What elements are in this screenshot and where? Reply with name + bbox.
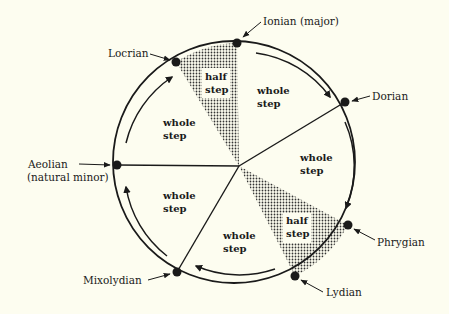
label-aeolian-sub: (natural minor) bbox=[27, 171, 109, 183]
svg-text:step: step bbox=[223, 243, 247, 254]
node-locrian bbox=[172, 58, 181, 67]
svg-text:half: half bbox=[286, 215, 309, 226]
svg-text:whole: whole bbox=[256, 85, 290, 96]
node-phrygian bbox=[344, 221, 353, 230]
node-ionian bbox=[233, 39, 242, 48]
svg-text:step: step bbox=[300, 165, 324, 176]
node-dorian bbox=[341, 98, 350, 107]
label-lydian: Lydian bbox=[326, 286, 362, 298]
svg-text:step: step bbox=[257, 98, 281, 109]
svg-text:step: step bbox=[163, 130, 187, 141]
label-phrygian: Phrygian bbox=[377, 236, 425, 248]
node-lydian bbox=[291, 272, 300, 281]
svg-text:step: step bbox=[286, 228, 310, 239]
label-ionian: Ionian (major) bbox=[263, 15, 339, 27]
svg-text:whole: whole bbox=[162, 190, 196, 201]
svg-text:whole: whole bbox=[222, 230, 256, 241]
svg-text:step: step bbox=[205, 84, 229, 95]
node-aeolian bbox=[113, 161, 122, 170]
svg-text:half: half bbox=[205, 71, 228, 82]
label-locrian: Locrian bbox=[108, 47, 149, 59]
modes-circle-diagram: Ionian (major) Dorian Phrygian Lydian Mi… bbox=[0, 0, 449, 314]
svg-text:whole: whole bbox=[162, 117, 196, 128]
half-step-sector-locrian-ionian bbox=[176, 43, 239, 166]
svg-text:whole: whole bbox=[299, 152, 333, 163]
label-mixolydian: Mixolydian bbox=[83, 274, 142, 286]
node-mixolydian bbox=[173, 268, 182, 277]
label-aeolian: Aeolian bbox=[27, 158, 68, 170]
diagram-canvas: Ionian (major) Dorian Phrygian Lydian Mi… bbox=[0, 0, 449, 314]
svg-text:step: step bbox=[163, 203, 187, 214]
label-dorian: Dorian bbox=[372, 90, 408, 102]
